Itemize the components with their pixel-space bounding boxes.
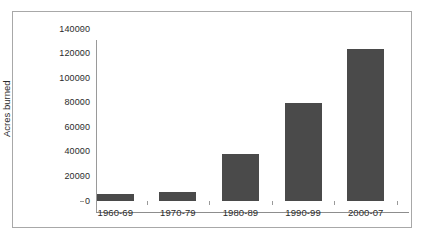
x-axis-tick-mark <box>272 201 273 205</box>
x-axis-category-label: 1960-69 <box>84 207 147 218</box>
x-axis-category-label: 1980-89 <box>209 207 272 218</box>
x-axis-category-label: 1990-99 <box>272 207 335 218</box>
y-axis-tick-mark <box>80 127 84 128</box>
y-axis-tick-mark <box>80 176 84 177</box>
y-axis-tick-mark <box>80 201 84 202</box>
y-axis-tick-mark <box>80 78 84 79</box>
y-axis-tick-mark <box>80 54 84 55</box>
x-axis-category-label: 1970-79 <box>147 207 210 218</box>
y-axis-tick-mark <box>80 29 84 30</box>
y-axis-tick-mark <box>80 103 84 104</box>
bar-1980-89 <box>222 154 259 201</box>
y-axis-tick-mark <box>80 152 84 153</box>
x-axis-tick-mark <box>397 201 398 205</box>
x-axis-tick-mark <box>334 201 335 205</box>
bar-1960-69 <box>97 194 134 201</box>
bar-1990-99 <box>285 103 322 201</box>
x-axis-category-label: 2000-07 <box>334 207 397 218</box>
chart-frame: Acres burned 020000400006000080000100000… <box>12 11 412 228</box>
bar-1970-79 <box>159 192 196 201</box>
y-axis-tick-labels: 020000400006000080000100000120000140000 <box>42 12 90 229</box>
y-axis-line <box>96 40 97 213</box>
x-axis-tick-mark <box>209 201 210 205</box>
x-axis-tick-mark <box>147 201 148 205</box>
bar-2000-07 <box>347 49 384 201</box>
chart-screenshot: Acres burned 020000400006000080000100000… <box>0 0 429 244</box>
